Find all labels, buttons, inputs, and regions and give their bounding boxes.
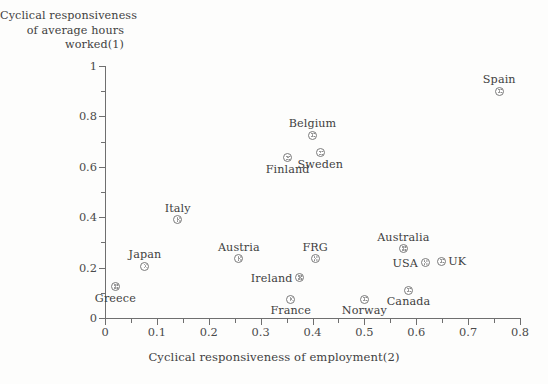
data-point-marker[interactable] bbox=[286, 295, 295, 304]
y-axis-title: Cyclical responsiveness of average hours… bbox=[0, 9, 124, 53]
data-point-marker[interactable] bbox=[495, 87, 504, 96]
data-point-label: Belgium bbox=[289, 117, 337, 130]
x-axis-tick-label: 0 bbox=[85, 325, 125, 339]
x-axis-tick-label: 0.2 bbox=[189, 325, 229, 339]
data-point-label: Australia bbox=[377, 231, 429, 244]
x-axis-minor-tick bbox=[338, 319, 339, 323]
data-point-label: France bbox=[270, 304, 310, 317]
data-point-label: UK bbox=[448, 255, 466, 268]
data-point-marker[interactable] bbox=[140, 262, 149, 271]
data-point-marker[interactable] bbox=[295, 273, 304, 282]
data-point-label: Japan bbox=[129, 248, 162, 261]
data-point-label: FRG bbox=[302, 241, 327, 254]
x-axis-minor-tick bbox=[442, 319, 443, 323]
data-point-marker[interactable] bbox=[360, 295, 369, 304]
y-axis-tick bbox=[99, 167, 105, 168]
x-axis-tick-label: 0.3 bbox=[241, 325, 281, 339]
y-axis-tick bbox=[99, 66, 105, 67]
data-point-label: Greece bbox=[95, 292, 136, 305]
y-axis-line bbox=[105, 66, 106, 319]
data-point-marker[interactable] bbox=[173, 215, 182, 224]
data-point-label: Spain bbox=[483, 73, 516, 86]
x-axis-tick-label: 0.7 bbox=[448, 325, 488, 339]
y-axis-minor-tick bbox=[101, 142, 105, 143]
y-axis-tick bbox=[99, 268, 105, 269]
x-axis-tick-label: 0.5 bbox=[344, 325, 384, 339]
x-axis-tick-label: 0.8 bbox=[500, 325, 540, 339]
y-axis-minor-tick bbox=[101, 192, 105, 193]
data-point-marker[interactable] bbox=[399, 244, 408, 253]
y-axis-minor-tick bbox=[101, 242, 105, 243]
scatter-chart: Cyclical responsiveness of average hours… bbox=[0, 0, 548, 384]
data-point-marker[interactable] bbox=[421, 258, 430, 267]
data-point-label: USA bbox=[393, 256, 418, 269]
y-axis-tick-label: 0.8 bbox=[57, 109, 97, 123]
y-axis-tick-label: 0.6 bbox=[57, 160, 97, 174]
data-point-marker[interactable] bbox=[308, 131, 317, 140]
data-point-label: Finland bbox=[266, 163, 310, 176]
x-axis-minor-tick bbox=[131, 319, 132, 323]
x-axis-tick-label: 0.6 bbox=[396, 325, 436, 339]
data-point-marker[interactable] bbox=[316, 148, 325, 157]
data-point-label: Austria bbox=[218, 241, 260, 254]
data-point-marker[interactable] bbox=[234, 254, 243, 263]
y-axis-tick-label: 0.4 bbox=[57, 210, 97, 224]
x-axis-title: Cyclical responsiveness of employment(2) bbox=[0, 350, 548, 364]
y-axis-tick-label: 0 bbox=[57, 311, 97, 325]
y-axis-title-line-3: worked(1) bbox=[0, 38, 124, 53]
y-axis-tick bbox=[99, 217, 105, 218]
data-point-marker[interactable] bbox=[311, 254, 320, 263]
data-point-label: Ireland bbox=[251, 271, 293, 284]
data-point-marker[interactable] bbox=[437, 257, 446, 266]
x-axis-minor-tick bbox=[235, 319, 236, 323]
data-point-label: Norway bbox=[342, 304, 387, 317]
data-point-label: Canada bbox=[387, 295, 431, 308]
y-axis-tick-label: 1 bbox=[57, 59, 97, 73]
x-axis-tick-label: 0.1 bbox=[137, 325, 177, 339]
data-point-label: Italy bbox=[165, 202, 191, 215]
y-axis-tick-label: 0.2 bbox=[57, 261, 97, 275]
y-axis-title-line-1: Cyclical responsiveness bbox=[0, 9, 124, 24]
y-axis-title-line-2: of average hours bbox=[0, 24, 124, 39]
x-axis-minor-tick bbox=[287, 319, 288, 323]
data-point-marker[interactable] bbox=[283, 153, 292, 162]
data-point-marker[interactable] bbox=[111, 282, 120, 291]
y-axis-minor-tick bbox=[101, 91, 105, 92]
x-axis-tick-label: 0.4 bbox=[293, 325, 333, 339]
x-axis-minor-tick bbox=[390, 319, 391, 323]
data-point-marker[interactable] bbox=[404, 286, 413, 295]
x-axis-minor-tick bbox=[183, 319, 184, 323]
x-axis-minor-tick bbox=[494, 319, 495, 323]
y-axis-tick bbox=[99, 116, 105, 117]
